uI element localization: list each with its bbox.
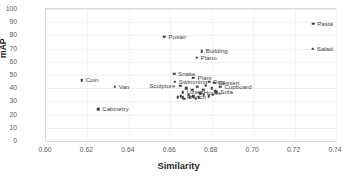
- data-point: [194, 98, 197, 101]
- data-point: [214, 90, 217, 93]
- data-point: [179, 84, 182, 87]
- data-point: [198, 96, 201, 99]
- data-point: [189, 96, 192, 99]
- y-tick-label: 0: [0, 137, 17, 144]
- data-point: [205, 84, 208, 87]
- plot-area: PastaSaladPosterBuildingPianoSnakeCoinPl…: [45, 8, 337, 142]
- y-tick-label: 90: [0, 18, 17, 25]
- data-point: [163, 35, 166, 38]
- data-point: [114, 86, 117, 89]
- data-point-label: Piano: [201, 55, 217, 61]
- data-point: [203, 94, 206, 97]
- data-point-label: Van: [119, 84, 130, 90]
- gridline-y: [46, 101, 336, 102]
- x-tick-label: 0.62: [80, 146, 93, 153]
- data-point: [196, 57, 199, 60]
- y-tick-label: 10: [0, 123, 17, 130]
- data-point: [97, 108, 100, 111]
- gridline-y: [46, 128, 336, 129]
- y-tick-label: 30: [0, 97, 17, 104]
- x-tick-label: 0.66: [163, 146, 176, 153]
- gridline-y: [46, 35, 336, 36]
- y-tick-label: 60: [0, 57, 17, 64]
- data-point: [173, 72, 176, 75]
- y-tick-label: 40: [0, 84, 17, 91]
- data-point: [212, 94, 215, 97]
- gridline-y: [46, 115, 336, 116]
- data-point: [176, 96, 179, 99]
- data-point-label: Salad: [317, 45, 333, 51]
- data-point-label: Swimming: [179, 78, 208, 84]
- gridline-x: [295, 9, 296, 141]
- data-point: [312, 22, 315, 25]
- data-point: [208, 95, 211, 98]
- y-tick-label: 70: [0, 44, 17, 51]
- data-point: [191, 88, 194, 91]
- data-point-label: Sculpture: [149, 82, 175, 88]
- x-tick-label: 0.74: [328, 146, 341, 153]
- data-point: [185, 87, 188, 90]
- data-point: [200, 92, 203, 95]
- gridline-x: [212, 9, 213, 141]
- gridline-x: [129, 9, 130, 141]
- gridline-x: [46, 9, 47, 141]
- x-tick-label: 0.60: [38, 146, 51, 153]
- data-point: [181, 91, 184, 94]
- gridline-y: [46, 9, 336, 10]
- x-tick-label: 0.68: [204, 146, 217, 153]
- y-tick-label: 50: [0, 71, 17, 78]
- y-tick-label: 100: [0, 5, 17, 12]
- data-point: [183, 98, 186, 101]
- scatter-chart: mAP 0102030405060708090100 PastaSaladPos…: [0, 0, 357, 183]
- x-tick-label: 0.72: [287, 146, 300, 153]
- data-point: [196, 86, 199, 89]
- x-tick-label: 0.64: [121, 146, 134, 153]
- data-point: [201, 50, 204, 53]
- gridline-y: [46, 22, 336, 23]
- gridline-x: [170, 9, 171, 141]
- gridline-x: [336, 9, 337, 141]
- gridline-x: [87, 9, 88, 141]
- data-point-label: Coin: [86, 77, 99, 83]
- gridline-y: [46, 62, 336, 63]
- data-point: [213, 82, 216, 85]
- data-point-label: Sofa: [220, 89, 233, 95]
- gridline-x: [253, 9, 254, 141]
- data-point: [179, 95, 182, 98]
- data-point: [312, 47, 315, 50]
- data-point: [80, 79, 83, 82]
- data-point: [208, 80, 211, 83]
- x-axis-title: Similarity: [0, 160, 357, 171]
- y-tick-label: 20: [0, 110, 17, 117]
- data-point-label: Cabinetry: [102, 106, 128, 112]
- data-point: [202, 88, 205, 91]
- x-tick-label: 0.70: [246, 146, 259, 153]
- data-point-label: Pasta: [317, 20, 333, 26]
- y-tick-label: 80: [0, 31, 17, 38]
- data-point: [210, 87, 213, 90]
- gridline-y: [46, 49, 336, 50]
- data-point-label: Poster: [168, 34, 186, 40]
